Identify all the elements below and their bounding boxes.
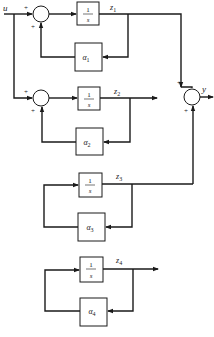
integrator-denominator: s xyxy=(90,272,93,280)
state-label-z1: z1 xyxy=(109,3,116,13)
integrator-numerator: 1 xyxy=(86,6,90,14)
channel-3: 1 s z3 α3 xyxy=(44,172,193,241)
integrator-denominator: s xyxy=(88,101,91,109)
integrator-numerator: 1 xyxy=(89,261,93,269)
integrator-numerator: 1 xyxy=(87,91,91,99)
feedback-line-4 xyxy=(108,269,133,311)
block-diagram: u + + 1 s z1 α1 + + 1 s z2 α2 xyxy=(0,0,214,337)
feedback-return-line-2 xyxy=(42,107,76,142)
feedback-line-3 xyxy=(106,184,132,227)
sign-plus: + xyxy=(177,79,181,87)
summing-junction-1 xyxy=(33,6,49,22)
sign-plus: + xyxy=(24,88,28,96)
state-label-z3: z3 xyxy=(115,172,122,182)
sign-plus: + xyxy=(31,107,35,115)
output-sum: + + y xyxy=(177,79,213,184)
channel-2: + + 1 s z2 α2 xyxy=(24,87,157,155)
state-label-z4: z4 xyxy=(115,256,122,266)
integrator-denominator: s xyxy=(89,187,92,195)
feedback-return-line-4 xyxy=(45,270,80,311)
feedback-return-line-3 xyxy=(44,185,78,227)
output-label: y xyxy=(201,84,206,94)
sign-plus: + xyxy=(24,4,28,12)
integrator-denominator: s xyxy=(87,16,90,24)
feedback-line-1 xyxy=(103,14,128,57)
state-label-z2: z2 xyxy=(113,87,120,97)
input-branch-line xyxy=(14,14,32,98)
feedback-return-line-1 xyxy=(41,23,75,57)
sign-plus: + xyxy=(184,107,188,115)
channel-1: + + 1 s z1 α1 xyxy=(24,2,181,87)
sign-plus: + xyxy=(31,23,35,31)
input-label: u xyxy=(3,3,8,13)
integrator-numerator: 1 xyxy=(88,177,92,185)
feedback-line-2 xyxy=(104,98,130,142)
channel-4: 1 s z4 α4 xyxy=(45,256,158,326)
z1-output-line xyxy=(99,14,181,87)
output-summing-junction xyxy=(184,89,200,105)
summing-junction-2 xyxy=(33,90,49,106)
